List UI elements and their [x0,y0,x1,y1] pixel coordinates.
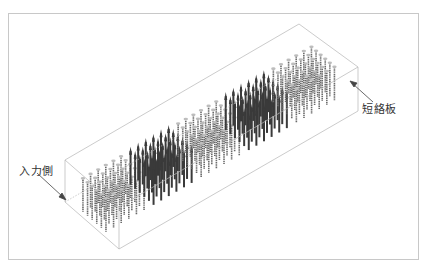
rod-tip [134,151,137,159]
rod-top [110,180,114,183]
rod-tip [239,83,242,91]
rod-top [294,87,298,90]
rod-top [181,126,185,129]
rod-top [93,177,97,180]
rod-top [213,121,217,124]
rod-top [297,79,301,82]
rod-top [317,74,321,77]
rod-top [294,54,298,57]
rod-top [196,117,200,120]
rod-top [305,75,309,78]
rod-top [332,65,336,68]
rod-top [320,66,324,69]
rod-top [206,105,210,108]
rod-tip [172,129,175,137]
rod-top [117,176,121,179]
rod-tip [141,146,144,154]
rod-top [190,134,194,137]
rod-tip [252,83,255,91]
rod-top [125,171,129,174]
rod-top [306,54,310,57]
rod-top [114,184,118,187]
rod-top [123,159,127,162]
rod-top [276,71,280,74]
rod-tip [236,92,239,100]
duct-array-diagram [0,0,429,267]
short-plate-label: 短絡板 [362,100,397,116]
rod-top [318,53,322,56]
rod-top [104,164,108,167]
rod-top [328,61,332,64]
rod-top [119,188,123,191]
rod-top [176,122,180,125]
short-plate-arrow [350,81,373,102]
input-side-label: 入力側 [19,162,54,178]
rod-tip [244,87,247,95]
rod-top [308,66,312,69]
rod-top [302,50,306,53]
rod-top [314,49,318,52]
rod-top [205,125,209,128]
rod-top [88,173,92,176]
rod-tip [160,129,163,137]
rod-top [299,58,303,61]
rod-top [108,168,112,171]
rod-top [119,155,123,158]
rod-top [211,109,215,112]
rod-tip [232,88,235,96]
rod-top [197,130,201,133]
rod-top [279,63,283,66]
rod-top [300,71,304,74]
rod-top [293,75,297,78]
rod-top [214,100,218,103]
rod-tip [152,134,155,142]
rod-top [111,193,115,196]
rod-top [214,133,218,136]
rod-top [325,70,329,73]
rod-top [219,104,223,107]
rod-tip [224,92,227,100]
rod-top [210,129,214,132]
rod-top [311,58,315,61]
rod-top [302,83,306,86]
rod-top [199,142,203,145]
rod-top [217,125,221,128]
rod-tip [262,70,265,78]
rod-tip [259,79,262,87]
rod-top [203,113,207,116]
rod-tip [164,133,167,141]
rod-tip [167,125,170,133]
rod-top [116,163,120,166]
rod-top [303,62,307,65]
rod-tip [144,138,147,146]
rod-top [290,83,294,86]
rod-top [309,45,313,48]
rod-tip [247,79,250,87]
rod-tip [267,74,270,82]
rod-tip [149,142,152,150]
rod-top [184,118,188,121]
rod-tip [129,147,132,155]
rod-top [271,67,275,70]
rod-tip [157,138,160,146]
rod-top [101,172,105,175]
rod-tip [137,142,140,150]
rod-top [312,70,316,73]
rod-top [194,138,198,141]
rod-top [102,185,106,188]
rod-top [96,168,100,171]
rod-top [285,79,289,82]
rod-top [122,180,126,183]
rod-top [309,79,313,82]
rod-top [315,62,319,65]
rod-top [283,67,287,70]
rod-tip [255,75,258,83]
rod-top [207,138,211,141]
rod-top [291,63,295,66]
rod-top [111,159,115,162]
rod-top [323,57,327,60]
rod-top [191,113,195,116]
rod-array-blocks [81,45,337,232]
rod-top [199,109,203,112]
rod-top [188,122,192,125]
